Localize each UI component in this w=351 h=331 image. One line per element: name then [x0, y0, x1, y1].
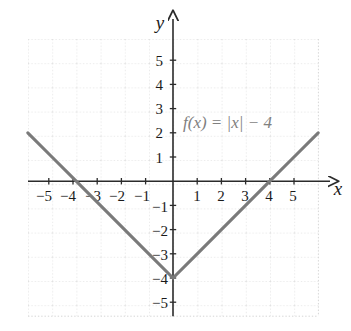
x-tick-label: −5	[36, 188, 52, 204]
x-tick-label: 4	[265, 188, 273, 204]
x-tick-label: 2	[217, 188, 225, 204]
y-tick-label: −2	[152, 223, 168, 239]
y-tick-label: 2	[156, 125, 164, 141]
y-tick-label: −5	[152, 295, 168, 311]
y-tick-label: 4	[156, 77, 164, 93]
y-tick-label: 5	[156, 53, 164, 69]
x-tick-label: 5	[289, 188, 297, 204]
x-tick-label: −1	[134, 188, 150, 204]
chart-figure: x y −5	[0, 0, 351, 331]
y-tick-label: −1	[152, 199, 168, 215]
x-tick-label: −4	[60, 188, 76, 204]
y-axis-label: y	[154, 12, 165, 33]
function-equation-label: f(x) = |x| − 4	[183, 113, 272, 132]
y-tick-label: 1	[156, 150, 164, 166]
absolute-value-function-plot: x y −5	[0, 0, 351, 331]
x-tick-label: 1	[193, 188, 201, 204]
x-tick-label: −2	[109, 188, 125, 204]
y-tick-label: 3	[156, 101, 164, 117]
x-axis-label: x	[333, 178, 343, 199]
y-tick-label: −4	[152, 271, 168, 287]
